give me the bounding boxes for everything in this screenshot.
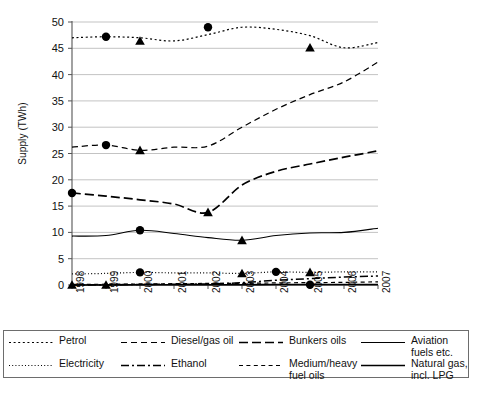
legend-item: Electricity — [8, 358, 120, 381]
data-point-marker — [203, 208, 213, 217]
legend-item: Diesel/gas oil — [120, 335, 238, 358]
data-point-marker — [306, 281, 314, 289]
chart-figure: Supply (TWh) 05101520253035404550 199819… — [0, 0, 480, 399]
data-point-marker — [305, 268, 315, 277]
legend-label: Diesel/gas oil — [171, 335, 233, 347]
legend-line-swatch-icon — [360, 337, 406, 348]
data-point-marker — [204, 23, 212, 31]
series-line — [72, 228, 378, 240]
legend-line-swatch-icon — [238, 360, 284, 371]
legend-label: Ethanol — [171, 358, 207, 370]
data-point-marker — [102, 33, 110, 41]
legend: PetrolDiesel/gas oilBunkers oilsAviation… — [3, 330, 469, 378]
legend-label: Medium/heavy fuel oils — [289, 358, 360, 381]
legend-item: Aviation fuels etc. — [360, 335, 472, 358]
legend-label: Bunkers oils — [289, 335, 346, 347]
legend-line-swatch-icon — [8, 360, 54, 371]
legend-item: Medium/heavy fuel oils — [238, 358, 360, 381]
data-point-marker — [68, 189, 76, 197]
data-point-marker — [272, 268, 280, 276]
series-line — [72, 272, 378, 274]
legend-label: Petrol — [59, 335, 86, 347]
legend-label: Natural gas, incl. LPG — [411, 358, 472, 381]
legend-line-swatch-icon — [8, 337, 54, 348]
legend-item: Bunkers oils — [238, 335, 360, 358]
data-point-marker — [136, 226, 144, 234]
series-line — [72, 151, 378, 213]
legend-line-swatch-icon — [120, 337, 166, 348]
data-point-marker — [136, 268, 144, 276]
plot-canvas — [0, 0, 480, 312]
data-point-marker — [305, 43, 315, 52]
legend-item: Natural gas, incl. LPG — [360, 358, 472, 381]
legend-line-swatch-icon — [120, 360, 166, 371]
legend-label: Aviation fuels etc. — [411, 335, 472, 358]
series-line — [72, 284, 378, 285]
plot-area: Supply (TWh) 05101520253035404550 199819… — [0, 0, 480, 312]
legend-item: Ethanol — [120, 358, 238, 381]
series-line — [72, 27, 378, 48]
legend-line-swatch-icon — [238, 337, 284, 348]
series-line — [72, 62, 378, 150]
data-point-marker — [102, 141, 110, 149]
legend-label: Electricity — [59, 358, 104, 370]
legend-item: Petrol — [8, 335, 120, 358]
legend-line-swatch-icon — [360, 360, 406, 371]
